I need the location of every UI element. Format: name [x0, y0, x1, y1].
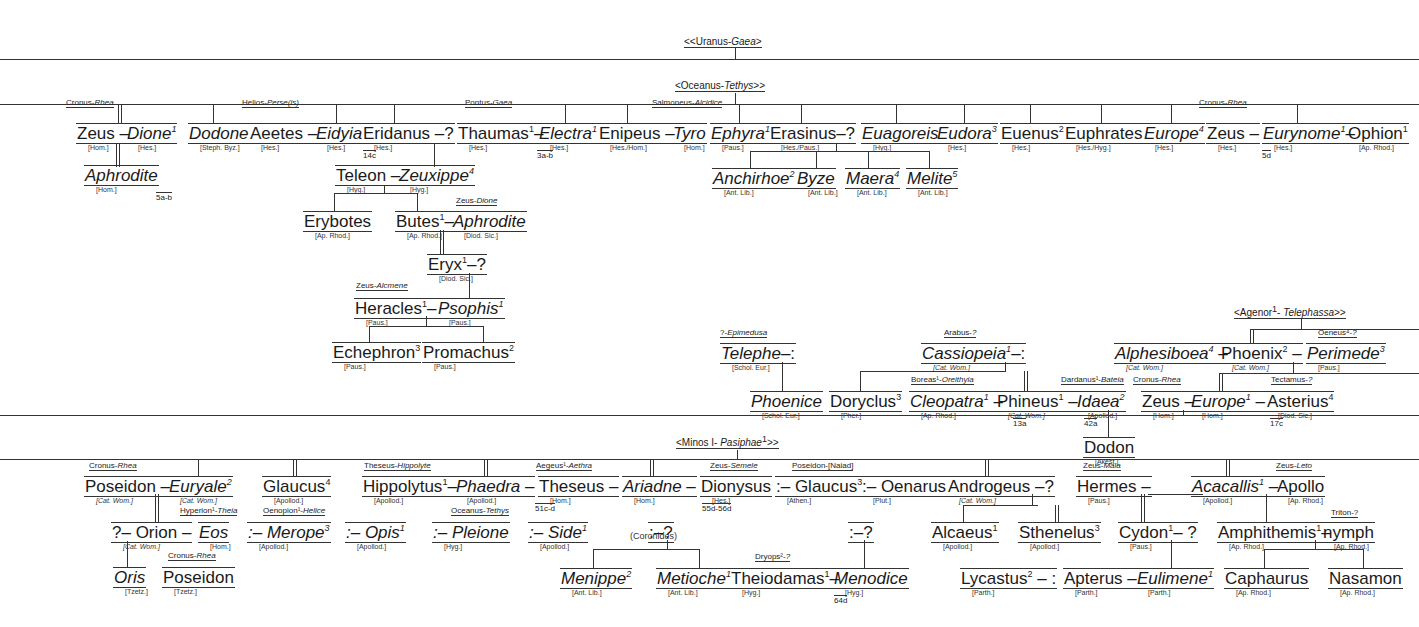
person-hippolytus: Hippolytus1– [Apollod.]: [362, 476, 458, 497]
person-name: Aeetes –: [249, 123, 318, 144]
source-citation: [Paus.]: [366, 319, 388, 326]
source-citation: [Hom.]: [1153, 412, 1174, 419]
person-name: Apterus –: [1063, 568, 1138, 589]
union-dash: –: [1123, 569, 1137, 588]
person-dionysus: Dionysus[Hes.]: [700, 476, 772, 497]
superscript: 1: [1208, 569, 1213, 579]
page-reference: 5d: [1262, 150, 1271, 160]
person-name: Psophis1: [437, 298, 505, 319]
source-citation: [Tzetz.]: [125, 588, 148, 595]
person-name: Lycastus2 – :: [960, 568, 1057, 589]
person-name: Electra1: [538, 123, 598, 144]
person-name: Echephron3: [332, 342, 421, 363]
union-dash: –: [177, 523, 191, 542]
parent-mother: Rhea: [1227, 98, 1246, 107]
root-agenor-telephassa: <Agenor1- Telephassa>>: [1234, 307, 1346, 319]
person-erybotes: Erybotes[Ap. Rhod.]: [303, 211, 372, 232]
connector: [1250, 329, 1254, 344]
parent-mother: Semele: [730, 461, 757, 470]
person-apollo: Apollo[Ap. Rhod.]: [1276, 476, 1325, 497]
connector: [896, 104, 897, 124]
source-citation: [Hes./Hyg.]: [1076, 144, 1111, 151]
source-citation: [Ap. Rhod.]: [1359, 144, 1394, 151]
union-dash: –: [604, 477, 618, 496]
union-dash: –: [1287, 344, 1301, 363]
connector: [964, 104, 965, 124]
person-name: :– Side1: [528, 522, 588, 543]
parent-father: Boreas¹-: [911, 375, 942, 384]
source-citation: [Hes./Paus.]: [781, 144, 819, 151]
person-name: Poseidon –: [84, 476, 171, 497]
source-citation: [Plut.]: [873, 497, 891, 504]
person-name: Aphrodite: [84, 165, 159, 186]
person-name: Eidyia: [315, 123, 363, 144]
source-citation: [Steph. Byz.]: [200, 144, 240, 151]
person-menippe: Menippe2[Ant. Lib.]: [560, 568, 632, 589]
parent-mother: ?: [1308, 375, 1312, 384]
source-citation: [Hom.]: [210, 543, 231, 550]
source-citation: [Hom.]: [96, 186, 117, 193]
source-citation: [Cat. Wom.]: [959, 497, 996, 504]
parents-label: Arabus-?: [944, 328, 976, 338]
superscript: 3: [415, 343, 420, 353]
superscript: 3: [896, 392, 901, 402]
person-phaedra: Phaedra – [Apollod.]51c-d: [455, 476, 535, 497]
person-anchirhoe: Anchirhoe2[Ant. Lib.]: [712, 168, 796, 189]
person-side: :– Side1[Apollod.]: [528, 522, 588, 543]
parents-label: Poseidon-[Naiad]: [792, 461, 853, 471]
person-name: Zeuxippe4: [398, 165, 475, 186]
source-citation: [Apollod.]: [467, 497, 496, 504]
person-pleione: :– Pleione[Hyg.]: [432, 522, 510, 543]
parent-mother: Epimedusa: [727, 328, 767, 337]
person-name: Europe4: [1143, 123, 1205, 144]
person-name: Acacallis1 –: [1191, 476, 1279, 497]
person-theiodamas: Theiodamas1– [Hyg.]64d: [730, 568, 840, 589]
source-citation: [Ant. Lib.]: [918, 189, 948, 196]
person-butes: Butes1– [Ap. Rhod.]: [395, 211, 455, 232]
parent-father: Poseidon-: [792, 461, 828, 470]
connector: [593, 549, 594, 568]
page-reference: 55d-56d: [702, 503, 731, 513]
person-name: Caphaurus: [1224, 568, 1309, 589]
connector: [1030, 104, 1031, 124]
person-name: Cleopatra1 –: [909, 391, 1004, 412]
superscript: 1: [498, 299, 503, 309]
source-citation: [Hom.]: [550, 497, 571, 504]
source-citation: [Hyg.]: [410, 186, 428, 193]
person-name: Promachus2: [422, 342, 515, 363]
source-citation: [Paus.]: [344, 363, 366, 370]
connector: [1301, 319, 1302, 329]
union-dash: –: [682, 477, 696, 496]
connector: [860, 371, 1006, 372]
page-reference: 64d: [834, 595, 847, 605]
parents-label: Zeus-Semele: [710, 461, 758, 471]
person-merope: :– Merope3[Apollod.]: [247, 522, 331, 543]
source-citation: [Hom.]: [1202, 412, 1223, 419]
connector: [484, 459, 488, 477]
superscript: 1: [582, 523, 587, 533]
source-citation: [Diod. Sic.]: [464, 232, 498, 239]
parent-father: Oceanus-: [451, 506, 486, 515]
generation-divider: [0, 59, 1419, 60]
person-dodon: Dodon[Akest.]: [1083, 437, 1135, 458]
root-label: >>: [1334, 307, 1346, 318]
source-citation: [Hes.]: [327, 144, 345, 151]
person-echephron: Echephron3[Paus.]: [332, 342, 421, 363]
person-apterus: Apterus – [Parth.]: [1063, 568, 1138, 589]
person-name: Euryale2: [168, 476, 233, 497]
person-orion: ?– Orion – [Cat. Wom.]: [111, 522, 192, 543]
connector: [118, 104, 122, 124]
root-oceanus-tethys: <Oceanus-Tethys>>: [675, 80, 765, 92]
page-reference: 14c: [363, 150, 376, 160]
person-name: :– Oenarus: [861, 476, 947, 497]
parents-label: Zeus-Maia: [1083, 461, 1121, 471]
person-ephyra: Ephyra1[Paus.]: [710, 123, 771, 144]
person-zeus2: Zeus – [Hes.]5d: [1206, 123, 1260, 144]
source-citation: [Apollod.]: [274, 497, 303, 504]
parents-label: Cronus-Rhea: [1133, 375, 1181, 385]
source-citation: [Schol. Eur.]: [732, 364, 770, 371]
union-dash: –:: [1011, 344, 1025, 363]
source-citation: [Hes.]: [374, 144, 392, 151]
person-name: Phineus1 –: [996, 391, 1079, 412]
superscript: 3: [1380, 344, 1385, 354]
